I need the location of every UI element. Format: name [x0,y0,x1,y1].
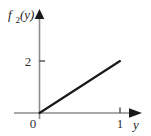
figure-container: f 2 (y) 2 0 1 y [0,0,151,136]
plot-canvas: f 2 (y) 2 0 1 y [0,0,151,136]
y-axis-label-f: f [8,7,14,22]
x-axis-label-y: y [131,117,139,132]
y-axis-arrow-icon [35,9,45,19]
y-tick-label-2: 2 [25,54,32,69]
data-series-line [40,61,121,113]
x-tick-label-1: 1 [117,116,124,131]
y-axis-label-argument: (y) [20,7,34,22]
origin-label-0: 0 [30,116,37,131]
